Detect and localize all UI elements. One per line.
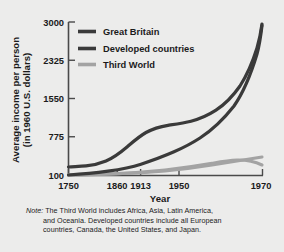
x-tick-label-1860: 1860 [107, 181, 128, 191]
legend-label-developed-countries: Developed countries [103, 44, 194, 54]
chart-note: Note: The Third World includes Africa, A… [26, 206, 272, 235]
chart-figure: 3000 2325 1550 775 100 1750 1860 1913 19… [0, 0, 284, 252]
y-tick-label-1550: 1550 [43, 94, 64, 104]
y-tick-label-2325: 2325 [43, 56, 64, 66]
note-text-line-3: countries, Canada, the United States, an… [26, 225, 272, 235]
note-line-1: Note: The Third World includes Africa, A… [26, 206, 272, 216]
legend-label-great-britain: Great Britain [103, 27, 160, 37]
x-tick-label-1913: 1913 [130, 181, 151, 191]
note-text-line-1: The Third World includes Africa, Asia, L… [45, 206, 213, 215]
x-tick-label-1970: 1970 [251, 181, 272, 191]
note-text-line-2: and Oceania. Developed countries include… [26, 216, 272, 226]
y-axis-ticks [69, 22, 76, 175]
chart-legend: Great Britain Developed countries Third … [78, 27, 194, 70]
x-tick-label-1750: 1750 [58, 181, 79, 191]
y-tick-label-775: 775 [48, 132, 64, 142]
legend-label-third-world: Third World [103, 60, 155, 70]
x-axis-title: Year [150, 193, 171, 204]
y-tick-label-3000: 3000 [43, 18, 64, 28]
note-label: Note: [26, 206, 43, 215]
y-tick-label-100: 100 [48, 171, 64, 181]
y-axis-title-line1: Average income per person [10, 37, 21, 163]
x-tick-label-1950: 1950 [169, 181, 190, 191]
y-axis-title-line2: (in 1960 U.S. dollars) [21, 53, 32, 147]
